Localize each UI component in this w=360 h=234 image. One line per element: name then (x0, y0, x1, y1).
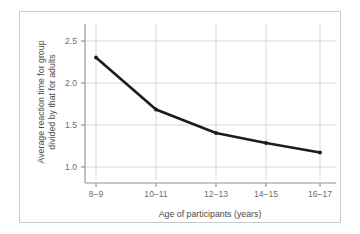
ytick-label-2: 1.5 (65, 120, 77, 130)
data-point-8-9 (94, 56, 98, 60)
data-point-16-17 (318, 151, 322, 155)
plot-area-background (85, 24, 336, 180)
x-axis-title: Age of participants (years) (159, 209, 262, 219)
x-axis-ticks (96, 183, 320, 187)
line-chart: 2.5 2.0 1.5 1.0 8–9 10–11 12–13 14–15 16… (0, 0, 360, 234)
ytick-label-3: 1.0 (65, 162, 77, 172)
data-point-12-13 (214, 131, 218, 135)
y-axis-title-line-1: Average reaction time for group (36, 40, 46, 163)
y-axis-title-line-2: divided by that for adults (47, 54, 57, 150)
ytick-label-0: 2.5 (65, 36, 77, 46)
y-axis-ticks (81, 41, 85, 167)
xtick-label-1: 10–11 (144, 189, 167, 199)
xtick-label-3: 14–15 (254, 189, 278, 199)
ytick-label-1: 2.0 (65, 78, 77, 88)
xtick-label-2: 12–13 (204, 189, 228, 199)
chart-figure: 2.5 2.0 1.5 1.0 8–9 10–11 12–13 14–15 16… (0, 0, 360, 234)
data-point-10-11 (154, 108, 158, 112)
data-point-14-15 (264, 141, 268, 145)
xtick-label-0: 8–9 (89, 189, 104, 199)
xtick-label-4: 16–17 (308, 189, 332, 199)
